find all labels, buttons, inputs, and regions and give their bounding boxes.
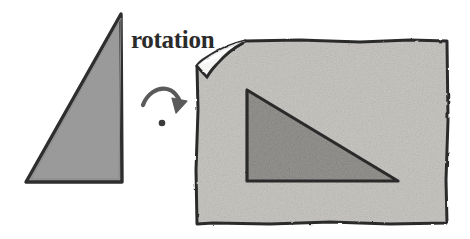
paper-sheet	[196, 40, 448, 224]
rotation-arrow-head	[172, 98, 187, 113]
paper-surface-texture	[196, 40, 448, 224]
rotation-arrow	[143, 89, 187, 113]
rotation-figure: rotation	[0, 0, 470, 239]
rotation-label: rotation	[131, 27, 214, 53]
pre-image-triangle	[26, 14, 122, 182]
rotation-center-dot	[159, 120, 166, 127]
rotation-diagram-canvas	[0, 0, 470, 239]
pre-image-triangle-shape	[26, 14, 122, 182]
